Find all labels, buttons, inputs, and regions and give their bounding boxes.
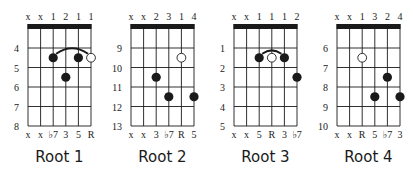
- finger-label: 4: [192, 11, 197, 22]
- note-dot: [61, 73, 70, 82]
- note-dot: [189, 92, 198, 101]
- interval-label: 5: [257, 129, 262, 140]
- interval-label: x: [232, 129, 237, 140]
- interval-label: x: [141, 129, 146, 140]
- chord-diagram-4: xx1324678910xxR5♭73Root 4: [318, 11, 405, 166]
- interval-label: ♭7: [164, 129, 174, 140]
- nut: [131, 24, 195, 29]
- interval-label: x: [26, 129, 31, 140]
- note-dot: [395, 92, 404, 101]
- barre-arc: [56, 48, 88, 54]
- finger-label: 4: [398, 11, 403, 22]
- diagram-title: Root 2: [138, 148, 186, 166]
- finger-label: 1: [282, 11, 287, 22]
- note-dot: [255, 53, 264, 62]
- fret-number: 10: [112, 63, 122, 74]
- interval-label: ♭7: [383, 129, 393, 140]
- finger-label: 1: [89, 11, 94, 22]
- finger-label: 1: [257, 11, 262, 22]
- chord-diagram-3: xx111212345xx5R3♭7Root 3: [220, 11, 302, 166]
- diagram-title: Root 3: [241, 148, 289, 166]
- interval-label: 5: [372, 129, 377, 140]
- interval-label: R: [178, 129, 185, 140]
- nut: [337, 24, 401, 29]
- interval-label: ♭7: [292, 129, 302, 140]
- root-dot: [358, 53, 367, 62]
- interval-label: 5: [76, 129, 81, 140]
- finger-label: 2: [295, 11, 300, 22]
- interval-label: R: [359, 129, 366, 140]
- fret-number: 5: [14, 63, 19, 74]
- fret-number: 2: [220, 63, 225, 74]
- interval-label: 3: [63, 129, 68, 140]
- fret-number: 6: [323, 43, 328, 54]
- finger-label: 1: [76, 11, 81, 22]
- finger-label: 3: [372, 11, 377, 22]
- fret-number: 12: [112, 102, 122, 113]
- interval-label: x: [244, 129, 249, 140]
- finger-label: x: [232, 11, 237, 22]
- nut: [28, 24, 92, 29]
- note-dot: [370, 92, 379, 101]
- nut: [234, 24, 298, 29]
- root-dot: [267, 53, 276, 62]
- root-dot: [87, 53, 96, 62]
- interval-label: R: [268, 129, 275, 140]
- note-dot: [383, 73, 392, 82]
- note-dot: [164, 92, 173, 101]
- fret-number: 7: [323, 63, 328, 74]
- interval-label: x: [347, 129, 352, 140]
- diagram-title: Root 1: [35, 148, 83, 166]
- fret-number: 11: [112, 82, 122, 93]
- fret-number: 9: [117, 43, 122, 54]
- finger-label: 1: [179, 11, 184, 22]
- note-dot: [49, 53, 58, 62]
- finger-label: 1: [360, 11, 365, 22]
- finger-label: x: [335, 11, 340, 22]
- root-dot: [177, 53, 186, 62]
- interval-label: x: [129, 129, 134, 140]
- finger-label: 1: [51, 11, 56, 22]
- chord-diagram-1: xx121145678xx♭735RRoot 1: [14, 11, 95, 166]
- interval-label: R: [88, 129, 95, 140]
- chord-diagrams-canvas: xx121145678xx♭735RRoot 1xx2314910111213x…: [0, 0, 413, 171]
- fret-number: 8: [323, 82, 328, 93]
- finger-label: x: [347, 11, 352, 22]
- finger-label: 2: [63, 11, 68, 22]
- diagram-title: Root 4: [344, 148, 392, 166]
- finger-label: x: [129, 11, 134, 22]
- chord-diagram-2: xx2314910111213xx3♭7R5Root 2: [112, 11, 199, 166]
- fret-number: 10: [318, 121, 328, 132]
- fret-number: 1: [220, 43, 225, 54]
- finger-label: 1: [269, 11, 274, 22]
- interval-label: 3: [398, 129, 403, 140]
- fret-number: 6: [14, 82, 19, 93]
- finger-label: x: [141, 11, 146, 22]
- finger-label: x: [244, 11, 249, 22]
- fret-number: 4: [14, 43, 19, 54]
- note-dot: [152, 73, 161, 82]
- interval-label: 3: [154, 129, 159, 140]
- note-dot: [280, 53, 289, 62]
- finger-label: 2: [154, 11, 159, 22]
- finger-label: 2: [385, 11, 390, 22]
- fret-number: 3: [220, 82, 225, 93]
- note-dot: [74, 53, 83, 62]
- interval-label: ♭7: [48, 129, 58, 140]
- interval-label: 5: [192, 129, 197, 140]
- fret-number: 13: [112, 121, 122, 132]
- note-dot: [292, 73, 301, 82]
- finger-label: x: [26, 11, 31, 22]
- fret-number: 5: [220, 121, 225, 132]
- interval-label: 3: [282, 129, 287, 140]
- fret-number: 4: [220, 102, 225, 113]
- finger-label: 3: [166, 11, 171, 22]
- fret-number: 7: [14, 102, 19, 113]
- fret-number: 8: [14, 121, 19, 132]
- interval-label: x: [335, 129, 340, 140]
- fret-number: 9: [323, 102, 328, 113]
- finger-label: x: [38, 11, 43, 22]
- interval-label: x: [38, 129, 43, 140]
